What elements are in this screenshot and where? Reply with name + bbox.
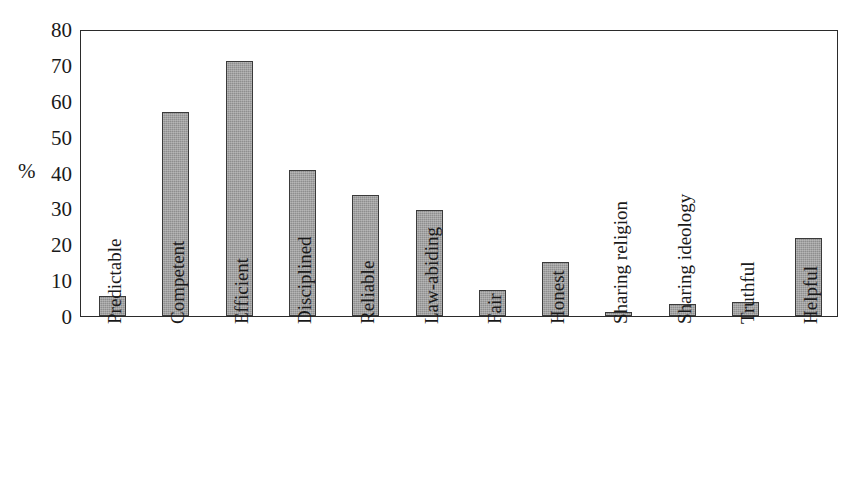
y-axis-label: 80 [24,20,72,41]
x-axis-category-text: Reliable [358,261,377,324]
x-axis-category-text: Truthful [738,261,757,324]
x-axis-category-text: Sharing ideology [675,194,694,324]
x-axis-category-text: Efficient [232,258,251,324]
y-axis-label: 40 [24,164,72,185]
y-axis-label: 20 [24,235,72,256]
y-axis-label: 70 [24,56,72,77]
y-axis-label: 10 [24,271,72,292]
x-axis-category-text: Law-abiding [422,227,441,324]
x-axis-category-text: Honest [548,270,567,324]
x-axis-category-text: Predictable [105,239,124,324]
x-axis-category-text: Competent [168,241,187,324]
y-axis-label: 0 [24,307,72,328]
x-axis-category-text: Helpful [801,266,820,324]
x-axis-category-text: Disciplined [295,236,314,324]
y-axis-label: 30 [24,199,72,220]
y-axis-label: 50 [24,128,72,149]
bar-chart-figure: % 01020304050607080 PredictableCompetent… [0,0,861,490]
y-axis-label: 60 [24,92,72,113]
x-axis-category-text: Sharing religion [611,201,630,324]
x-axis-category-text: Fair [485,293,504,324]
plot-area [80,30,838,317]
